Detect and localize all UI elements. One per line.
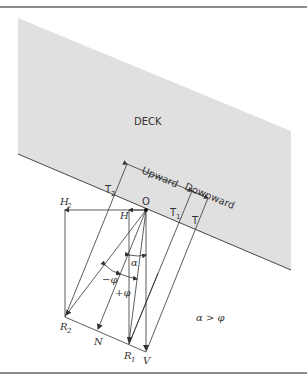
svg-text:2: 2	[66, 327, 72, 335]
origin-point	[144, 208, 148, 212]
svg-text:1: 1	[131, 356, 135, 364]
point-N-label: N	[93, 336, 104, 347]
point-R2-label: R 2	[59, 321, 72, 335]
svg-text:2: 2	[111, 190, 115, 198]
svg-text:2: 2	[66, 202, 72, 210]
force-diagram: DECK Upward Downward O T 2 T 1 T H 2 H α…	[0, 0, 307, 381]
minus-phi-label: −φ	[102, 274, 117, 285]
alpha-label: α	[131, 257, 138, 268]
deck-label: DECK	[134, 116, 162, 127]
plus-phi-label: +φ	[115, 287, 130, 298]
point-T-label: T	[191, 215, 199, 226]
point-R1-label: R 1	[123, 350, 135, 364]
point-H-label: H	[119, 210, 129, 221]
point-V-label: V	[143, 355, 152, 366]
point-H2-label: H 2	[59, 196, 72, 210]
point-O-label: O	[142, 196, 150, 207]
deck-area	[18, 18, 291, 270]
condition-label: α > φ	[196, 312, 225, 323]
svg-text:1: 1	[176, 213, 180, 221]
